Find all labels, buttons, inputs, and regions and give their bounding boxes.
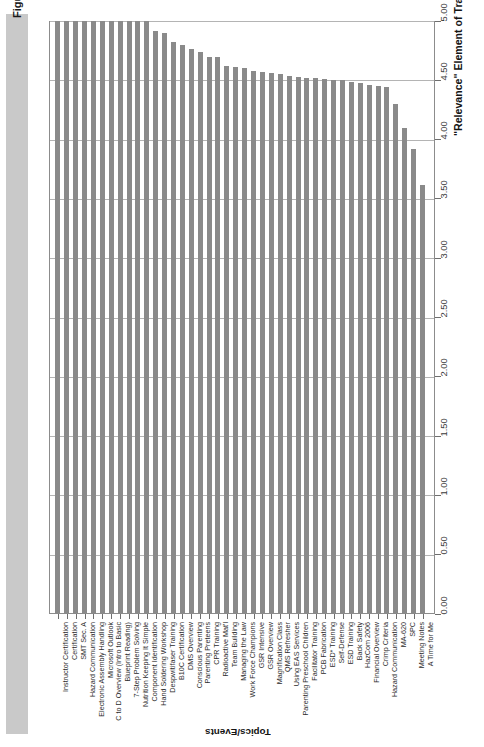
category-axis-tick bbox=[218, 614, 219, 619]
category-axis-tick bbox=[200, 614, 201, 619]
bar bbox=[189, 49, 194, 614]
category-axis-tick-label: Parenting Preschool Children bbox=[301, 622, 310, 716]
category-axis-tick bbox=[227, 614, 228, 619]
bar bbox=[118, 21, 123, 614]
bar bbox=[127, 21, 132, 614]
category-axis-tick-label: Crimp Criteria bbox=[381, 622, 390, 666]
bar bbox=[207, 57, 212, 614]
category-axis-tick bbox=[378, 614, 379, 619]
category-axis-tick bbox=[298, 614, 299, 619]
bar bbox=[100, 21, 105, 614]
bar bbox=[242, 68, 247, 614]
bar bbox=[64, 21, 69, 614]
category-axis-tick bbox=[369, 614, 370, 619]
category-axis-tick bbox=[271, 614, 272, 619]
category-axis-tick bbox=[423, 614, 424, 619]
bar bbox=[384, 87, 389, 614]
page-title: Figure 28-5. Relevance Evaluations for a… bbox=[6, 0, 28, 36]
category-axis-tick bbox=[254, 614, 255, 619]
category-axis-tick bbox=[58, 614, 59, 619]
category-axis-tick bbox=[325, 614, 326, 619]
category-axis-tick-label: Blueprint Reading) bbox=[123, 622, 132, 682]
bar bbox=[109, 21, 114, 614]
bar bbox=[376, 86, 381, 614]
bar bbox=[322, 79, 327, 614]
value-axis-tick-label: 1.50 bbox=[438, 396, 451, 436]
value-axis-tick-label: 4.50 bbox=[438, 40, 451, 80]
category-axis-tick bbox=[289, 614, 290, 619]
value-axis-tick-label: 2.00 bbox=[438, 337, 451, 377]
bar bbox=[358, 83, 363, 614]
bar bbox=[135, 21, 140, 614]
category-axis-tick-label: PCB Fabrication bbox=[319, 622, 328, 674]
value-axis-tick-label: 1.00 bbox=[438, 455, 451, 495]
category-axis-tick-label: Using EAS Services bbox=[292, 622, 301, 686]
bar bbox=[233, 67, 238, 614]
category-axis-tick bbox=[174, 614, 175, 619]
category-axis-tick-label: Work Force Champions bbox=[248, 622, 257, 697]
bar bbox=[269, 73, 274, 614]
category-axis-tick bbox=[209, 614, 210, 619]
category-axis-tick bbox=[129, 614, 130, 619]
category-axis-tick bbox=[245, 614, 246, 619]
value-axis-title: "Relevance" Element of Training Assessme… bbox=[452, 0, 468, 136]
category-axis-tick-label: 7-Step Problem Solving bbox=[132, 622, 141, 698]
figure-title-band bbox=[6, 14, 28, 734]
category-axis-tick-label: Instructor Certification bbox=[61, 622, 70, 692]
category-axis-tick bbox=[316, 614, 317, 619]
bar bbox=[411, 149, 416, 614]
category-axis-tick-label: ESD Training bbox=[346, 622, 355, 664]
value-axis-tick-label: 3.50 bbox=[438, 159, 451, 199]
category-axis-tick-label: Certification bbox=[70, 622, 79, 660]
category-axis-tick bbox=[165, 614, 166, 619]
bar bbox=[393, 104, 398, 614]
category-axis-tick-label: Component Identification bbox=[150, 622, 159, 702]
bar bbox=[180, 45, 185, 614]
category-axis-title: Topics/Events bbox=[183, 722, 293, 738]
category-axis-tick bbox=[334, 614, 335, 619]
bar bbox=[313, 78, 318, 614]
category-axis-tick bbox=[262, 614, 263, 619]
category-axis-tick bbox=[67, 614, 68, 619]
category-axis-tick-label: CPR Training bbox=[212, 622, 221, 665]
category-axis-tick-label: ESD* Training bbox=[328, 622, 337, 667]
category-axis-tick bbox=[102, 614, 103, 619]
category-axis-tick bbox=[396, 614, 397, 619]
bar bbox=[198, 52, 203, 614]
category-axis-tick bbox=[414, 614, 415, 619]
category-axis-tick bbox=[191, 614, 192, 619]
value-axis-tick-label: 0.00 bbox=[438, 574, 451, 614]
category-axis-tick-label: Nutrition Keeping It Simple bbox=[141, 622, 150, 707]
category-axis-tick-label: Electronic Assembly Handling bbox=[97, 622, 106, 717]
bar-series bbox=[49, 21, 435, 614]
bar bbox=[340, 80, 345, 614]
bar bbox=[367, 85, 372, 614]
category-axis-tick bbox=[360, 614, 361, 619]
category-axis-tick bbox=[405, 614, 406, 619]
bar bbox=[278, 74, 283, 614]
bar bbox=[162, 33, 167, 614]
bar bbox=[153, 31, 158, 615]
bar bbox=[304, 78, 309, 614]
bar bbox=[73, 21, 78, 614]
category-axis-tick bbox=[307, 614, 308, 619]
bar bbox=[251, 71, 256, 614]
bar bbox=[349, 82, 354, 615]
value-axis-tick-label: 3.00 bbox=[438, 218, 451, 258]
bar bbox=[402, 128, 407, 614]
category-axis-tick-label: Facilitator Training bbox=[310, 622, 319, 681]
category-axis-tick bbox=[182, 614, 183, 619]
bar bbox=[55, 21, 60, 614]
bar bbox=[420, 185, 425, 614]
bar bbox=[260, 72, 265, 614]
category-axis-tick bbox=[93, 614, 94, 619]
value-axis-tick-label: 0.50 bbox=[438, 515, 451, 555]
category-axis-tick bbox=[343, 614, 344, 619]
category-axis-tick-label: GSR Overview bbox=[266, 622, 275, 670]
category-axis-tick bbox=[138, 614, 139, 619]
category-axis-tick bbox=[147, 614, 148, 619]
category-axis-tick bbox=[387, 614, 388, 619]
category-axis-tick-label: SMT Sec. A bbox=[79, 622, 88, 660]
value-axis-tick-label: 4.00 bbox=[438, 100, 451, 140]
category-axis-tick-label: Hand Soldering Workshop bbox=[159, 622, 168, 706]
